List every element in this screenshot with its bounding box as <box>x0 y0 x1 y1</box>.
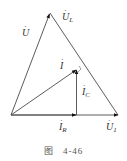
caption-prefix: 图 <box>44 146 54 156</box>
label-IC: IC · <box>82 87 90 99</box>
label-I: I · <box>60 61 63 71</box>
label-IR: IR · <box>59 122 67 134</box>
vector-I <box>11 70 76 115</box>
label-U1: U1 · <box>106 122 117 134</box>
caption-number: 4-46 <box>63 146 84 156</box>
label-U: U · <box>22 28 29 38</box>
right-angle-mark <box>78 66 81 72</box>
label-UL: UL · <box>62 12 73 24</box>
phasor-diagram <box>0 0 127 161</box>
vector-U <box>11 14 50 115</box>
figure-caption: 图 4-46 <box>0 144 127 157</box>
